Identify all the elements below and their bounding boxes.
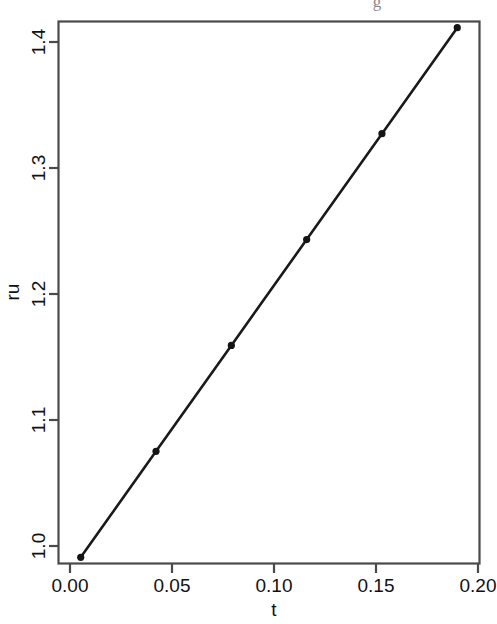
y-axis-title: ru (2, 284, 23, 301)
y-tick-label-1.4: 1.4 (28, 28, 49, 55)
x-tick-label-0.10: 0.10 (256, 575, 293, 596)
x-tick-label-0.20: 0.20 (460, 575, 497, 596)
line-chart[interactable]: g 1.0 1.1 1.2 1.3 1.4 ru (0, 0, 497, 624)
y-tick-label-1.1: 1.1 (28, 407, 49, 433)
y-axis-ticks (49, 42, 58, 546)
x-tick-label-0.05: 0.05 (154, 575, 191, 596)
y-tick-label-1.2: 1.2 (28, 281, 49, 307)
data-point[interactable] (454, 24, 461, 31)
data-point[interactable] (303, 236, 310, 243)
y-tick-label-1.0: 1.0 (28, 533, 49, 559)
y-axis-tick-labels: 1.0 1.1 1.2 1.3 1.4 (28, 28, 49, 559)
x-axis-title: t (271, 599, 277, 620)
x-axis-ticks (70, 564, 478, 573)
clipped-caption-fragment: g (373, 0, 382, 11)
data-point[interactable] (378, 130, 385, 137)
series-line-ru (81, 28, 458, 558)
data-point[interactable] (152, 448, 159, 455)
x-axis-tick-labels: 0.00 0.05 0.10 0.15 0.20 (52, 575, 497, 596)
series-ru[interactable] (77, 24, 461, 561)
x-tick-label-0.00: 0.00 (52, 575, 89, 596)
y-tick-label-1.3: 1.3 (28, 155, 49, 181)
x-tick-label-0.15: 0.15 (358, 575, 395, 596)
data-point[interactable] (228, 342, 235, 349)
data-point[interactable] (77, 554, 84, 561)
figure-canvas: g 1.0 1.1 1.2 1.3 1.4 ru (0, 0, 497, 624)
